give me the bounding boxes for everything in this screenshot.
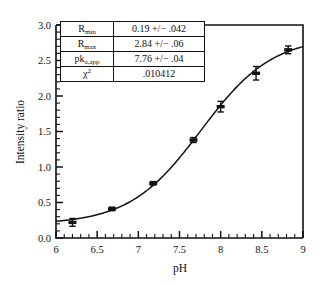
y-axis-label: Intensity ratio: [14, 100, 27, 164]
data-point: [217, 101, 225, 112]
x-tick-label: 7.5: [173, 244, 186, 255]
x-tick-label: 6.5: [91, 244, 104, 255]
x-tick-label: 6: [53, 244, 58, 255]
parameter-name: pka,app: [61, 52, 114, 67]
y-tick-label: 1.5: [38, 126, 51, 137]
y-tick-label: 0.5: [38, 197, 51, 208]
parameter-name: Rmax: [61, 37, 114, 52]
y-tick-label: 1.0: [38, 162, 51, 173]
x-tick-label: 9: [300, 244, 305, 255]
parameter-value: 0.19 +/− .042: [114, 22, 205, 37]
data-point: [252, 67, 260, 80]
parameter-value: 7.76 +/− .04: [114, 52, 205, 67]
y-tick-label: 2.5: [38, 55, 51, 66]
x-tick-label: 8: [218, 244, 223, 255]
table-row: Rmax2.84 +/− .06: [61, 37, 205, 52]
fit-parameters-table: Rmin0.19 +/− .042Rmax2.84 +/− .06pka,app…: [60, 21, 205, 82]
y-tick-label: 0.0: [38, 233, 51, 244]
data-point: [149, 182, 157, 186]
table-row: pka,app7.76 +/− .04: [61, 52, 205, 67]
x-tick-label: 8.5: [255, 244, 268, 255]
parameter-name: Rmin: [61, 22, 114, 37]
table-row: χ2.010412: [61, 67, 205, 82]
parameter-name: χ2: [61, 67, 114, 82]
table-row: Rmin0.19 +/− .042: [61, 22, 205, 37]
y-tick-label: 2.0: [38, 91, 51, 102]
parameter-value: 2.84 +/− .06: [114, 37, 205, 52]
x-tick-label: 7: [136, 244, 141, 255]
parameter-value: .010412: [114, 67, 205, 82]
x-axis-label: pH: [173, 262, 187, 275]
figure-container: 66.577.588.590.00.51.01.52.02.53.0 pH In…: [0, 0, 323, 286]
y-tick-label: 3.0: [38, 20, 51, 31]
data-point: [108, 207, 116, 211]
data-point: [189, 138, 197, 143]
